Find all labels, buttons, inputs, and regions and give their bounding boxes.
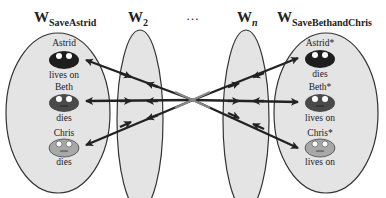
world-label-save-astrid: WSaveAstrid	[34, 9, 97, 28]
svg-text:Astrid*: Astrid*	[306, 38, 335, 48]
svg-text:lives on: lives on	[305, 157, 335, 167]
face-dark-icon	[49, 51, 79, 69]
world-ellipse-w2	[117, 30, 163, 198]
ellipsis-label: …	[186, 8, 199, 23]
svg-text:Astrid: Astrid	[52, 38, 76, 48]
svg-text:dies: dies	[56, 113, 72, 123]
svg-text:Chris*: Chris*	[307, 128, 333, 138]
world-label-wn: Wn	[237, 9, 258, 28]
svg-text:Beth*: Beth*	[309, 82, 332, 92]
svg-text:Beth: Beth	[55, 82, 73, 92]
person-beth-star: Beth* lives on	[305, 82, 335, 123]
svg-text:lives on: lives on	[49, 70, 79, 80]
svg-text:Chris: Chris	[54, 128, 75, 138]
world-label-w2: W2	[128, 9, 148, 28]
svg-text:lives on: lives on	[305, 113, 335, 123]
world-mapping-diagram: WSaveAstrid W2 … Wn WSaveBethandChris As…	[0, 0, 386, 198]
face-dark-icon	[305, 50, 335, 68]
face-medium-icon	[49, 94, 79, 112]
face-light-icon	[305, 139, 335, 157]
face-light-icon	[49, 139, 79, 157]
world-label-save-beth-chris: WSaveBethandChris	[277, 9, 372, 28]
svg-text:dies: dies	[312, 69, 328, 79]
person-astrid: Astrid lives on	[49, 38, 79, 80]
face-medium-icon	[305, 94, 335, 112]
svg-text:dies: dies	[56, 157, 72, 167]
person-chris-star: Chris* lives on	[305, 128, 335, 167]
